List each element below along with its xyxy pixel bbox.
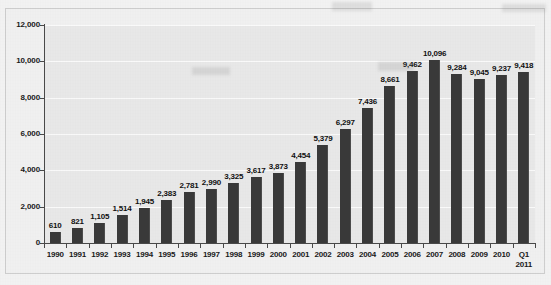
x-axis-tick-label: Q12011 (504, 250, 544, 269)
bar (451, 74, 462, 243)
y-axis-tick (40, 170, 45, 171)
x-axis-tick (156, 244, 157, 248)
y-axis-tick (40, 61, 45, 62)
bar (384, 86, 395, 243)
x-axis-tick (44, 244, 45, 248)
x-axis-tick (200, 244, 201, 248)
x-axis-tick (490, 244, 491, 248)
x-axis-tick (290, 244, 291, 248)
bar (228, 183, 239, 243)
y-axis-tick (40, 207, 45, 208)
y-axis-tick (40, 98, 45, 99)
x-axis-tick (513, 244, 514, 248)
y-axis-tick-label: 8,000 (2, 94, 40, 102)
bar-chart-figure: 02,0004,0006,0008,00010,00012,000 199019… (0, 0, 551, 285)
x-axis-tick (468, 244, 469, 248)
bar-value-label: 4,454 (281, 152, 321, 160)
bar (206, 189, 217, 243)
bar (518, 72, 529, 243)
bar-value-label: 1,105 (80, 213, 120, 221)
x-axis-tick (401, 244, 402, 248)
x-axis-tick (178, 244, 179, 248)
bar-value-label: 7,436 (348, 98, 388, 106)
y-axis-tick-label: 2,000 (2, 203, 40, 211)
x-axis-tick (66, 244, 67, 248)
bar-value-label: 6,297 (325, 119, 365, 127)
x-axis-tick (245, 244, 246, 248)
bar (251, 177, 262, 243)
bar-value-label: 2,383 (147, 190, 187, 198)
bar-value-label: 5,379 (303, 135, 343, 143)
bar (295, 162, 306, 243)
bar-value-label: 3,873 (258, 163, 298, 171)
x-axis-tick (111, 244, 112, 248)
x-axis-tick (379, 244, 380, 248)
bar (50, 232, 61, 243)
bar (474, 79, 485, 243)
bar-value-label: 1,945 (124, 198, 164, 206)
x-axis-tick (446, 244, 447, 248)
bar (429, 60, 440, 243)
x-axis-tick (535, 244, 536, 248)
bar (161, 200, 172, 243)
bar-value-label: 9,462 (392, 61, 432, 69)
gridline (44, 61, 535, 62)
gridline (44, 25, 535, 26)
x-axis-tick (89, 244, 90, 248)
x-axis-tick (334, 244, 335, 248)
y-axis-tick-label: 10,000 (2, 57, 40, 65)
x-axis-tick (312, 244, 313, 248)
x-axis-tick (267, 244, 268, 248)
bar (72, 228, 83, 243)
bar (273, 173, 284, 243)
bar-value-label: 8,661 (370, 76, 410, 84)
x-axis-tick-label-line: 2011 (504, 260, 544, 270)
y-axis-tick-label: 6,000 (2, 130, 40, 138)
y-axis-tick-label: 4,000 (2, 166, 40, 174)
bar-value-label: 9,418 (504, 62, 544, 70)
x-axis-tick-label-line: Q1 (504, 250, 544, 260)
bar (362, 108, 373, 243)
y-axis-tick (40, 25, 45, 26)
x-axis-tick (356, 244, 357, 248)
bar (184, 192, 195, 243)
x-axis-tick (423, 244, 424, 248)
bar-value-label: 1,514 (102, 205, 142, 213)
bar (340, 129, 351, 243)
x-axis-tick (133, 244, 134, 248)
bar-value-label: 10,096 (415, 50, 455, 58)
y-axis-tick (40, 134, 45, 135)
bar (496, 75, 507, 243)
bar (407, 71, 418, 243)
y-axis-tick-label: 12,000 (2, 21, 40, 29)
x-axis-tick (223, 244, 224, 248)
y-axis-tick-label: 0 (2, 239, 40, 247)
